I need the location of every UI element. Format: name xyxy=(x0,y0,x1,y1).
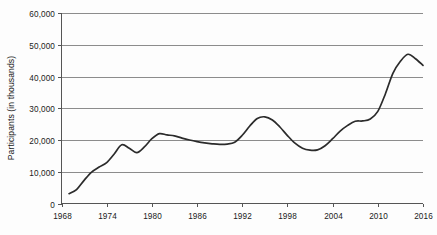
x-tick-label: 1980 xyxy=(143,212,162,221)
x-tick-label: 2010 xyxy=(369,212,388,221)
x-tick-label: 1968 xyxy=(53,212,72,221)
y-tick-label: 20,000 xyxy=(29,137,55,146)
y-tick-label: 0 xyxy=(50,201,55,210)
y-axis-label: Participants (in thousands) xyxy=(6,56,16,160)
y-tick-label: 30,000 xyxy=(29,105,55,114)
x-tick-label: 1986 xyxy=(188,212,207,221)
x-tick-label: 1974 xyxy=(98,212,117,221)
y-tick-label: 60,000 xyxy=(29,10,55,19)
x-tick-label: 2016 xyxy=(414,212,433,221)
x-tick-label: 1998 xyxy=(278,212,297,221)
y-tick-label: 50,000 xyxy=(29,42,55,51)
x-tick-label: 2004 xyxy=(324,212,343,221)
chart-canvas: 010,00020,00030,00040,00050,00060,000 19… xyxy=(0,0,437,235)
x-tick-label: 1992 xyxy=(233,212,252,221)
line-chart: 010,00020,00030,00040,00050,00060,000 19… xyxy=(0,0,437,235)
y-tick-label: 40,000 xyxy=(29,74,55,83)
y-tick-label: 10,000 xyxy=(29,169,55,178)
